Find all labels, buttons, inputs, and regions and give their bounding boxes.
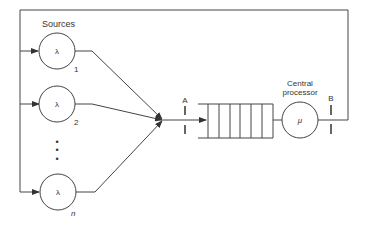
marker-a-label: A bbox=[182, 96, 188, 105]
queue-buffer bbox=[198, 104, 273, 138]
sources-label: Sources bbox=[42, 19, 76, 29]
queueing-diagram: Sources λ 1 λ 2 • • • λ n A Central proc… bbox=[0, 0, 367, 230]
source-n-output bbox=[76, 121, 162, 192]
source-2-index: 2 bbox=[74, 118, 79, 127]
source-1-index: 1 bbox=[74, 65, 79, 74]
diagram-canvas: Sources λ 1 λ 2 • • • λ n A Central proc… bbox=[0, 0, 367, 230]
processor-label-line1: Central bbox=[287, 79, 313, 88]
source-1-output bbox=[75, 51, 162, 119]
source-n-index: n bbox=[71, 209, 76, 218]
ellipsis-dot-3: • bbox=[55, 154, 58, 164]
marker-b-label: B bbox=[328, 94, 333, 103]
source-2-rate: λ bbox=[55, 100, 59, 109]
source-n-rate: λ bbox=[56, 188, 60, 197]
processor-rate: μ bbox=[297, 116, 303, 125]
processor-label-line2: processor bbox=[282, 88, 317, 97]
source-1-rate: λ bbox=[55, 47, 59, 56]
